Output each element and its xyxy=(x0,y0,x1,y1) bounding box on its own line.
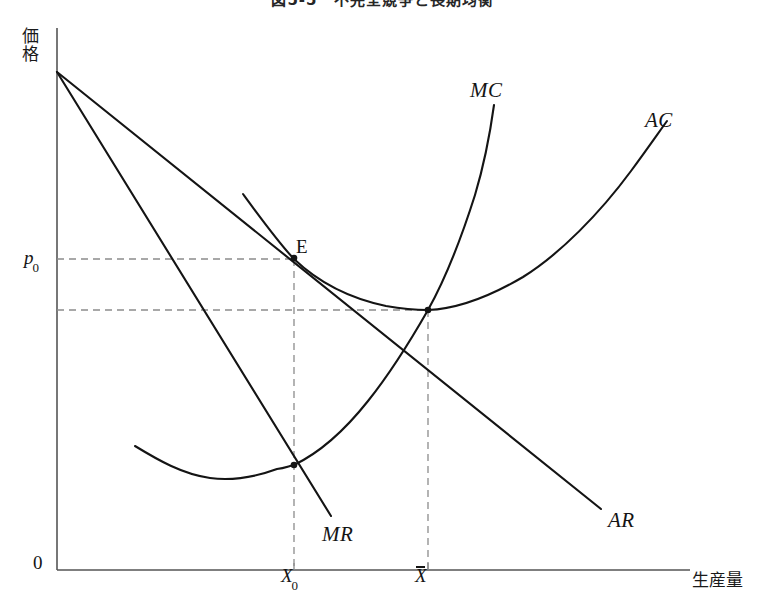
economics-plot xyxy=(0,0,765,613)
curve-label-mc: MC xyxy=(470,78,503,103)
curve-ar xyxy=(57,72,601,509)
curve-label-ar: AR xyxy=(608,508,635,533)
point-mc-ac-minimum xyxy=(425,307,432,314)
point-label-e: E xyxy=(296,236,308,258)
figure-page: 図5-5 不完全競争と長期均衡 価格 生産量 MC AC MR AR E p0 … xyxy=(0,0,765,613)
x-axis-title: 生産量 xyxy=(692,572,743,590)
origin-label: 0 xyxy=(33,552,43,574)
x-tick-label-x0: X0 xyxy=(281,565,299,591)
y-tick-label-p0: p0 xyxy=(24,247,40,273)
curve-label-ac: AC xyxy=(645,108,673,133)
y-axis-title: 価格 xyxy=(20,28,40,64)
curve-label-mr: MR xyxy=(322,522,353,547)
x0-base: X xyxy=(281,565,293,586)
x0-subscript: 0 xyxy=(292,578,299,593)
curve-ac xyxy=(243,121,667,310)
point-mr-mc-intersection xyxy=(291,462,298,469)
p0-subscript: 0 xyxy=(33,260,40,275)
xbar-base: X xyxy=(415,565,427,587)
x-tick-label-xbar: X xyxy=(415,565,427,587)
curve-mc xyxy=(135,105,494,479)
curve-mr xyxy=(57,72,331,516)
